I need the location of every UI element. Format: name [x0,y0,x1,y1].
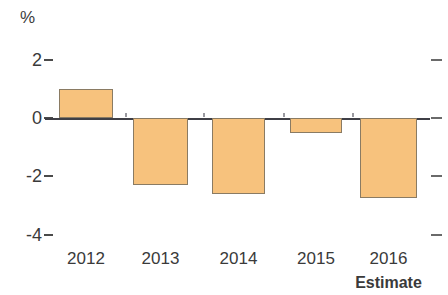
bar-2016 [360,118,417,198]
bar-chart: % 20-2-4 20122013201420152016Estimate [0,0,448,295]
x-axis-sublabel-estimate: Estimate [344,275,434,291]
x-axis-label-2016: 2016 [349,250,429,267]
y-axis-tick-mark-right [431,234,442,236]
y-axis-tick-label: -2 [26,167,42,185]
bar-2013 [133,118,188,185]
y-axis-tick-mark-left [44,234,53,236]
baseline-tick-mark [203,113,205,117]
baseline-tick-mark [283,113,285,117]
y-axis-tick-label: 0 [32,109,42,127]
x-axis-label-2014: 2014 [199,250,279,267]
bar-2014 [212,118,265,194]
y-axis-tick-mark-left [44,59,53,61]
y-axis-tick-label: -4 [26,226,42,244]
baseline-tick-mark [352,113,354,117]
y-axis-tick-label: 2 [32,51,42,69]
x-axis-label-2012: 2012 [46,250,126,267]
x-axis-label-2015: 2015 [276,250,356,267]
y-axis-tick-mark-right [431,175,442,177]
y-axis-unit-label: % [20,9,35,26]
y-axis-tick-mark-left [44,175,53,177]
y-axis-tick-mark-right [431,59,442,61]
x-axis-label-2013: 2013 [121,250,201,267]
bar-2012 [59,89,113,118]
bar-2015 [290,118,342,133]
y-axis-tick-mark-right [431,117,442,119]
baseline-tick-mark [125,113,127,117]
